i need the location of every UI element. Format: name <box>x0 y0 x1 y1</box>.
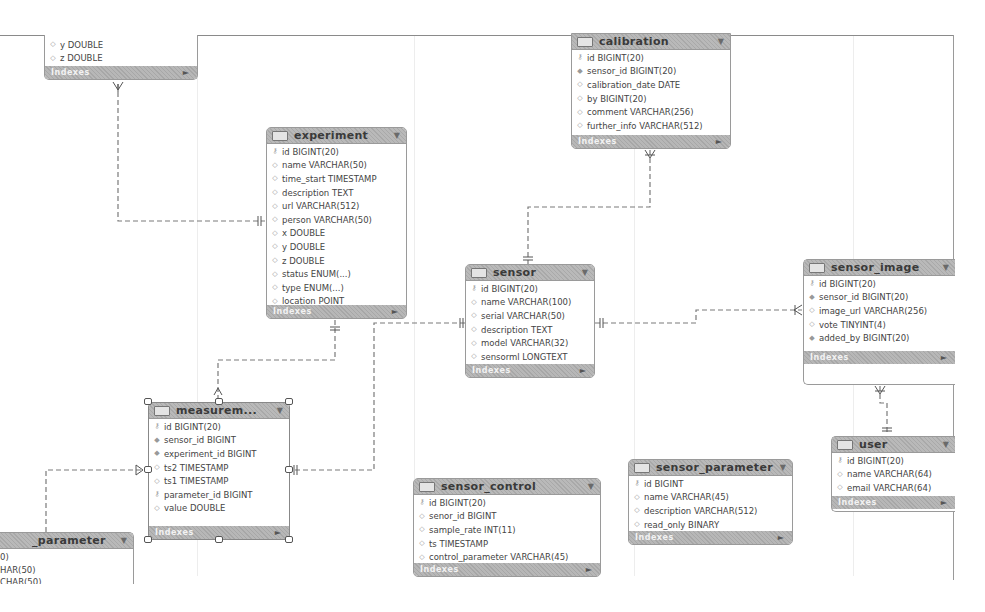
column-row[interactable]: ◇sample_rate INT(11) <box>414 523 600 537</box>
column-row[interactable]: ◇x DOUBLE <box>267 227 406 241</box>
indexes-section[interactable]: Indexes► <box>804 351 955 364</box>
column-row[interactable]: ⚷id BIGINT(20) <box>149 420 289 434</box>
resize-handle[interactable] <box>144 398 152 405</box>
column-row[interactable]: ◇z DOUBLE <box>45 52 197 66</box>
column-row[interactable]: ◇ts2 TIMESTAMP <box>149 461 289 475</box>
resize-handle[interactable] <box>215 398 223 405</box>
column-row[interactable]: ◇time_start TIMESTAMP <box>267 172 406 186</box>
eer-diagram-canvas[interactable]: ◇y DOUBLE ◇z DOUBLE Indexes► calibration… <box>0 0 985 612</box>
table-header[interactable]: sensor_image▼ <box>804 260 955 276</box>
resize-handle[interactable] <box>144 536 152 543</box>
collapse-chevron-icon[interactable]: ▼ <box>780 463 786 472</box>
collapse-chevron-icon[interactable]: ▼ <box>943 263 949 272</box>
column-row[interactable]: ◇comment VARCHAR(256) <box>572 105 730 119</box>
column-row[interactable]: ◇image_url VARCHAR(256) <box>804 304 955 318</box>
table-header[interactable]: _parameter▼ <box>0 533 133 549</box>
resize-handle[interactable] <box>285 536 293 543</box>
column-row[interactable]: ◇y DOUBLE <box>267 240 406 254</box>
table-header[interactable]: sensor▼ <box>466 265 594 281</box>
expand-arrow-icon[interactable]: ► <box>778 533 784 542</box>
column-row[interactable]: ◆sensor_id BIGINT(20) <box>804 291 955 305</box>
column-row[interactable]: ◇ts1 TIMESTAMP <box>149 474 289 488</box>
collapse-chevron-icon[interactable]: ▼ <box>588 482 594 491</box>
indexes-section[interactable]: Indexes► <box>572 135 730 148</box>
column-row[interactable]: ◇description VARCHAR(512) <box>629 504 792 518</box>
indexes-section[interactable]: Indexes► <box>414 563 600 576</box>
column-row[interactable]: ◆added_by BIGINT(20) <box>804 331 955 345</box>
column-row[interactable]: ◇y DOUBLE <box>45 38 197 52</box>
resize-handle[interactable] <box>215 536 223 543</box>
column-row[interactable]: ◇type ENUM(...) <box>267 281 406 295</box>
collapse-chevron-icon[interactable]: ▼ <box>943 440 949 449</box>
column-row[interactable]: ◇serial VARCHAR(50) <box>466 309 594 323</box>
indexes-section[interactable]: Indexes► <box>45 66 197 79</box>
column-row[interactable]: ⚷parameter_id BIGINT <box>149 488 289 502</box>
resize-handle[interactable] <box>285 466 293 473</box>
column-row[interactable]: ◇name VARCHAR(64) <box>832 468 955 482</box>
column-row[interactable]: ◇by BIGINT(20) <box>572 92 730 106</box>
column-row[interactable]: ◇sensorml LONGTEXT <box>466 350 594 364</box>
column-row[interactable]: ◇name VARCHAR(45) <box>629 491 792 505</box>
resize-handle[interactable] <box>144 466 152 473</box>
column-row[interactable]: ◆sensor_id BIGINT <box>149 434 289 448</box>
column-row[interactable]: ◆experiment_id BIGINT <box>149 447 289 461</box>
collapse-chevron-icon[interactable]: ▼ <box>277 406 283 415</box>
table-sensor-parameter[interactable]: sensor_parameter▼ ⚷id BIGINT ◇name VARCH… <box>628 459 793 545</box>
column-row[interactable]: ⚷id BIGINT(20) <box>414 496 600 510</box>
collapse-chevron-icon[interactable]: ▼ <box>582 268 588 277</box>
indexes-section[interactable]: Indexes► <box>629 531 792 544</box>
column-row[interactable]: ⚷id BIGINT <box>629 477 792 491</box>
table-header[interactable]: calibration▼ <box>572 34 730 50</box>
table-measurement[interactable]: measurem...▼ ⚷id BIGINT(20) ◆sensor_id B… <box>148 402 290 540</box>
expand-arrow-icon[interactable]: ► <box>716 137 722 146</box>
collapse-chevron-icon[interactable]: ▼ <box>394 131 400 140</box>
table-sensor-image[interactable]: sensor_image▼ ⚷id BIGINT(20) ◆sensor_id … <box>803 259 955 385</box>
table-header[interactable]: experiment▼ <box>267 128 406 144</box>
expand-arrow-icon[interactable]: ► <box>183 68 189 77</box>
table-header[interactable]: measurem...▼ <box>149 403 289 419</box>
column-row[interactable]: ⚷id BIGINT(20) <box>832 454 955 468</box>
collapse-chevron-icon[interactable]: ▼ <box>121 536 127 545</box>
table-calibration[interactable]: calibration▼ ⚷id BIGINT(20) ◆sensor_id B… <box>571 33 731 149</box>
expand-arrow-icon[interactable]: ► <box>586 565 592 574</box>
column-row[interactable]: ◇calibration_date DATE <box>572 78 730 92</box>
column-row[interactable]: ⚷id BIGINT(20) <box>804 277 955 291</box>
column-row[interactable]: ◇model VARCHAR(32) <box>466 336 594 350</box>
resize-handle[interactable] <box>285 398 293 405</box>
column-row[interactable]: ◇url VARCHAR(512) <box>267 199 406 213</box>
column-row[interactable]: ◇ts TIMESTAMP <box>414 537 600 551</box>
indexes-section[interactable]: Indexes► <box>466 364 594 377</box>
column-row[interactable]: ◇senor_id BIGINT <box>414 510 600 524</box>
column-row[interactable]: ◆sensor_id BIGINT(20) <box>572 65 730 79</box>
column-row[interactable]: ⚷id BIGINT(20) <box>572 51 730 65</box>
column-row[interactable]: ◇email VARCHAR(64) <box>832 481 955 495</box>
table-sensor-control[interactable]: sensor_control▼ ⚷id BIGINT(20) ◇senor_id… <box>413 478 601 577</box>
column-row[interactable]: ◇name VARCHAR(100) <box>466 296 594 310</box>
column-row[interactable]: ◇name VARCHAR(50) <box>267 159 406 173</box>
table-header[interactable]: user▼ <box>832 437 955 453</box>
table-user[interactable]: user▼ ⚷id BIGINT(20) ◇name VARCHAR(64) ◇… <box>831 436 955 512</box>
column-row[interactable]: ◇further_info VARCHAR(512) <box>572 119 730 133</box>
expand-arrow-icon[interactable]: ► <box>941 353 947 362</box>
column-row[interactable]: HAR(50) <box>0 564 133 578</box>
column-row[interactable]: ⚷id BIGINT(20) <box>466 282 594 296</box>
collapse-chevron-icon[interactable]: ▼ <box>718 37 724 46</box>
table-partial-top-left[interactable]: ◇y DOUBLE ◇z DOUBLE Indexes► <box>44 35 198 80</box>
expand-arrow-icon[interactable]: ► <box>392 307 398 316</box>
column-row[interactable]: ◇control_parameter VARCHAR(45) <box>414 550 600 564</box>
column-row[interactable]: ◇read_only BINARY <box>629 518 792 532</box>
table-sensor[interactable]: sensor▼ ⚷id BIGINT(20) ◇name VARCHAR(100… <box>465 264 595 378</box>
indexes-section[interactable]: Indexes► <box>832 496 955 509</box>
column-row[interactable]: 0) <box>0 550 133 564</box>
column-row[interactable]: ◇z DOUBLE <box>267 254 406 268</box>
column-row[interactable]: ◇description TEXT <box>466 323 594 337</box>
indexes-section[interactable]: Indexes► <box>267 305 406 318</box>
expand-arrow-icon[interactable]: ► <box>580 366 586 375</box>
expand-arrow-icon[interactable]: ► <box>275 528 281 537</box>
column-row[interactable]: ◇value DOUBLE <box>149 502 289 516</box>
table-experiment[interactable]: experiment▼ ⚷id BIGINT(20) ◇name VARCHAR… <box>266 127 407 319</box>
column-row[interactable]: ◇vote TINYINT(4) <box>804 318 955 332</box>
table-header[interactable]: sensor_parameter▼ <box>629 460 792 476</box>
column-row[interactable]: ◇description TEXT <box>267 186 406 200</box>
table-header[interactable]: sensor_control▼ <box>414 479 600 495</box>
